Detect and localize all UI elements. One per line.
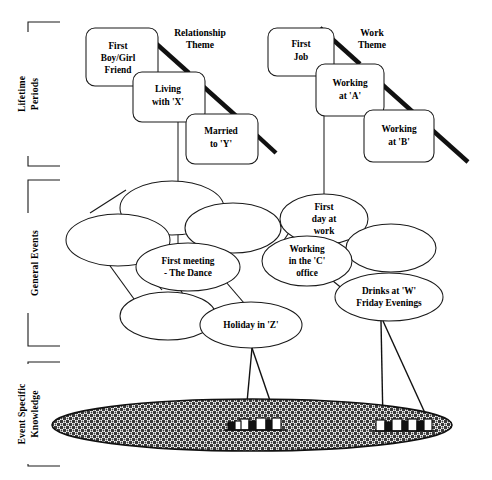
axis-label-general-events-line1: General Events [29, 230, 40, 296]
relationship-theme-line1: Relationship [174, 27, 226, 38]
box-married-to-y[interactable]: Married to 'Y' [186, 114, 258, 164]
ellipse-first-day-at-work-line2: day at [312, 214, 337, 224]
esk-cluster-right[interactable] [372, 419, 436, 431]
axis-label-esk-line2: Knowledge [29, 390, 40, 438]
ellipse-working-c-office-line3: office [296, 268, 318, 278]
ellipse-first-meeting-line1: First meeting [162, 256, 215, 266]
axis-label-event-specific-knowledge: Event Specific Knowledge [12, 364, 48, 464]
box-first-job-line2: Job [294, 52, 308, 62]
work-theme-line1: Work [360, 27, 384, 38]
ellipse-first-day-at-work-line3: work [314, 226, 335, 236]
ellipse-first-day-at-work-line1: First [314, 202, 334, 212]
ellipse-holiday-in-z-label: Holiday in 'Z' [223, 320, 278, 330]
box-married-to-y-line1: Married [204, 126, 238, 136]
autobiographical-memory-diagram: Lifetime Periods General Events Event Sp… [0, 0, 492, 480]
box-working-at-b-line2: at 'B' [388, 137, 409, 147]
box-working-at-b[interactable]: Working at 'B' [364, 110, 434, 162]
ellipse-general-event-blank-5[interactable] [346, 224, 436, 272]
box-first-job-line1: First [291, 39, 311, 49]
box-working-at-a-line2: at 'A' [339, 91, 361, 101]
box-working-at-a-line1: Working [332, 78, 367, 88]
ellipse-working-in-the-c-office[interactable]: Working in the 'C' office [262, 236, 352, 286]
box-working-at-b-line1: Working [381, 124, 416, 134]
axis-label-lifetime-periods-line2: Periods [29, 78, 40, 110]
ellipse-drinks-at-w-line2: Friday Evenings [356, 298, 422, 308]
theme-label-work: Work Theme [358, 27, 387, 50]
box-first-boy-girl-friend-line2: Boy/Girl [101, 53, 136, 63]
axis-label-lifetime-periods: Lifetime Periods [12, 32, 48, 156]
ellipse-first-meeting-line2: - The Dance [164, 268, 212, 278]
box-married-to-y-line2: to 'Y' [210, 139, 232, 149]
diagram-canvas: Lifetime Periods General Events Event Sp… [0, 0, 492, 480]
ellipse-holiday-in-z[interactable]: Holiday in 'Z' [200, 302, 302, 348]
relationship-theme-line2: Theme [186, 39, 215, 50]
ellipse-drinks-at-w-line1: Drinks at 'W' [362, 286, 416, 296]
ellipse-working-c-office-line2: in the 'C' [289, 256, 326, 266]
box-living-with-x-line1: Living [155, 84, 181, 94]
theme-label-relationship: Relationship Theme [174, 27, 226, 50]
ellipse-first-meeting-the-dance[interactable]: First meeting - The Dance [136, 243, 240, 291]
axis-label-general-events: General Events [24, 213, 44, 313]
ellipse-general-event-blank-4[interactable] [120, 292, 216, 340]
box-working-at-a[interactable]: Working at 'A' [316, 64, 384, 116]
ellipse-working-c-office-line1: Working [289, 244, 324, 254]
event-specific-knowledge-band[interactable] [52, 399, 452, 451]
box-first-boy-girl-friend-line3: Friend [105, 65, 133, 75]
axis-label-esk-line1: Event Specific [16, 383, 27, 445]
box-first-boy-girl-friend-line1: First [108, 41, 128, 51]
axis-label-lifetime-periods-line1: Lifetime [16, 75, 27, 112]
work-theme-line2: Theme [358, 39, 387, 50]
ellipse-drinks-at-w-friday-evenings[interactable]: Drinks at 'W' Friday Evenings [335, 273, 443, 321]
box-living-with-x-line2: with 'X' [152, 97, 184, 107]
